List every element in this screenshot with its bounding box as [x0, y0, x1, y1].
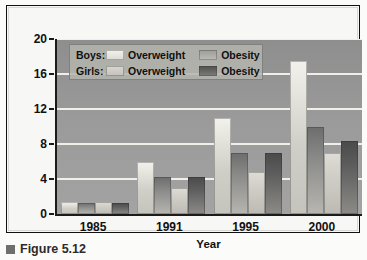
legend-row-girls: Girls: Overweight Obesity — [76, 63, 257, 79]
legend-row-boys: Boys: Overweight Obesity — [76, 47, 257, 63]
gridline — [57, 108, 362, 110]
figure-container: 048121620 Percentage of 7- to 18-Year-Ol… — [0, 0, 367, 260]
y-axis-tick-mark — [49, 178, 54, 180]
bar-1995-boys_obesity — [231, 153, 248, 214]
y-axis-tick-mark — [49, 73, 54, 75]
y-axis-tick-label: 20 — [21, 32, 47, 46]
y-axis-tick-label: 8 — [21, 137, 47, 151]
x-axis-tick-label: 2000 — [309, 220, 336, 234]
bar-1985-boys_overweight — [61, 202, 78, 214]
legend-swatch-boys-obesity — [199, 50, 217, 60]
bar-1995-boys_overweight — [214, 118, 231, 214]
bar-1995-girls_overweight — [248, 172, 265, 214]
y-axis-tick-mark — [49, 143, 54, 145]
x-axis-tick-label: 1991 — [156, 220, 183, 234]
legend-label-girls-obesity: Obesity — [221, 65, 260, 77]
legend-label-girls-overweight: Overweight — [128, 65, 185, 77]
figure-caption: Figure 5.12 — [6, 240, 360, 258]
legend-swatch-boys-overweight — [106, 50, 124, 60]
x-axis-tick-label: 1995 — [232, 220, 259, 234]
figure-caption-text: Figure 5.12 — [20, 242, 86, 256]
y-axis-tick-label: 12 — [21, 102, 47, 116]
bar-2000-boys_overweight — [290, 61, 307, 214]
bar-2000-girls_overweight — [324, 153, 341, 214]
y-axis-tick-mark — [49, 38, 54, 40]
legend-swatch-girls-overweight — [106, 66, 124, 76]
bar-2000-boys_obesity — [307, 127, 324, 215]
bar-1985-girls_obesity — [112, 203, 129, 214]
legend-swatch-girls-obesity — [199, 66, 217, 76]
chart-legend: Boys: Overweight Obesity Girls: Overweig… — [69, 44, 263, 80]
x-axis-tick-label: 1985 — [80, 220, 107, 234]
y-axis-tick-label: 0 — [21, 207, 47, 221]
legend-label-boys-overweight: Overweight — [128, 49, 185, 61]
bar-1995-girls_obesity — [265, 153, 282, 214]
y-axis-tick-mark — [49, 108, 54, 110]
legend-series-label-boys: Boys: — [76, 49, 106, 61]
y-axis-tick-label: 16 — [21, 67, 47, 81]
bar-1985-boys_obesity — [78, 203, 95, 214]
bar-1991-girls_obesity — [188, 177, 205, 214]
bar-1985-girls_overweight — [95, 202, 112, 214]
bar-2000-girls_obesity — [341, 141, 358, 214]
bar-1991-boys_overweight — [137, 162, 154, 215]
gridline — [57, 39, 362, 40]
legend-series-label-girls: Girls: — [76, 65, 106, 77]
figure-frame: 048121620 Percentage of 7- to 18-Year-Ol… — [6, 5, 360, 233]
bar-1991-girls_overweight — [171, 188, 188, 214]
y-axis-tick-mark — [49, 213, 54, 215]
legend-label-boys-obesity: Obesity — [221, 49, 260, 61]
y-axis-tick-label: 4 — [21, 172, 47, 186]
square-marker-icon — [6, 245, 15, 254]
bar-1991-boys_obesity — [154, 177, 171, 214]
